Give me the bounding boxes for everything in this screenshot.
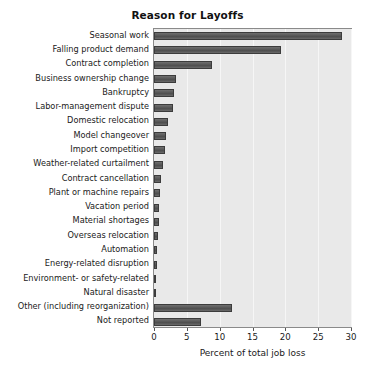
y-axis-tick-label: Falling product demand <box>0 45 149 54</box>
bar <box>154 161 163 169</box>
bar <box>154 175 161 183</box>
x-tick-label: 20 <box>280 332 291 342</box>
bar <box>154 304 232 312</box>
x-tick-label: 0 <box>151 332 156 342</box>
x-tick-mark <box>318 328 319 331</box>
x-tick-label: 25 <box>313 332 324 342</box>
y-axis-tick-label: Natural disaster <box>0 288 149 297</box>
y-axis-tick-label: Contract cancellation <box>0 174 149 183</box>
gridline <box>351 29 352 327</box>
y-axis-tick-label: Seasonal work <box>0 31 149 40</box>
y-axis-tick-label: Environment- or safety-related <box>0 274 149 283</box>
bar <box>154 232 158 240</box>
bar <box>154 46 281 54</box>
x-tick-mark <box>351 328 352 331</box>
bar <box>154 318 201 326</box>
bar <box>154 289 156 297</box>
x-axis-ticks: 051015202530 <box>153 328 352 344</box>
chart-figure: Reason for Layoffs Seasonal workFalling … <box>0 0 375 374</box>
y-axis-tick-label: Import competition <box>0 145 149 154</box>
x-tick-mark <box>187 328 188 331</box>
y-axis-tick-label: Business ownership change <box>0 74 149 83</box>
x-tick-label: 10 <box>214 332 225 342</box>
x-tick-label: 5 <box>184 332 189 342</box>
bar <box>154 275 156 283</box>
y-axis-tick-label: Weather-related curtailment <box>0 159 149 168</box>
bar-series <box>154 29 351 327</box>
x-tick-label: 15 <box>247 332 258 342</box>
x-tick-label: 30 <box>346 332 357 342</box>
y-axis-tick-label: Not reported <box>0 316 149 325</box>
y-axis-category-labels: Seasonal workFalling product demandContr… <box>0 28 149 328</box>
x-tick-mark <box>285 328 286 331</box>
bar <box>154 104 173 112</box>
y-axis-tick-label: Other (including reorganization) <box>0 302 149 311</box>
x-tick-mark <box>220 328 221 331</box>
bar <box>154 32 342 40</box>
bar <box>154 261 157 269</box>
y-axis-tick-label: Domestic relocation <box>0 116 149 125</box>
y-axis-tick-label: Vacation period <box>0 202 149 211</box>
y-axis-tick-label: Automation <box>0 245 149 254</box>
x-axis-label: Percent of total job loss <box>153 348 352 358</box>
x-tick-mark <box>154 328 155 331</box>
chart-title: Reason for Layoffs <box>0 9 375 21</box>
bar <box>154 132 166 140</box>
y-axis-tick-label: Material shortages <box>0 216 149 225</box>
bar <box>154 75 176 83</box>
x-tick-mark <box>253 328 254 331</box>
bar <box>154 146 165 154</box>
y-axis-tick-label: Energy-related disruption <box>0 259 149 268</box>
y-axis-tick-label: Contract completion <box>0 59 149 68</box>
y-axis-tick-label: Model changeover <box>0 131 149 140</box>
y-axis-tick-label: Labor-management dispute <box>0 102 149 111</box>
plot-area <box>153 28 352 328</box>
bar <box>154 204 159 212</box>
y-axis-tick-label: Overseas relocation <box>0 231 149 240</box>
bar <box>154 189 160 197</box>
bar <box>154 89 174 97</box>
bar <box>154 218 159 226</box>
bar <box>154 118 168 126</box>
y-axis-tick-label: Plant or machine repairs <box>0 188 149 197</box>
bar <box>154 61 212 69</box>
y-axis-tick-label: Bankruptcy <box>0 88 149 97</box>
bar <box>154 246 157 254</box>
